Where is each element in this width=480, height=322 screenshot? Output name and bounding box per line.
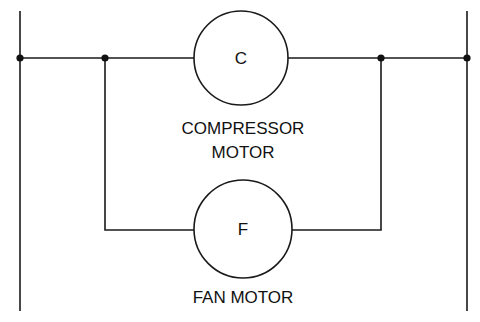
schematic-svg: C COMPRESSOR MOTOR F FAN MOTOR (0, 0, 480, 322)
compressor-motor-letter: C (235, 49, 247, 68)
ladder-diagram: C COMPRESSOR MOTOR F FAN MOTOR (0, 0, 480, 322)
fan-branch-wire-right (292, 58, 381, 230)
junction-node-branch-left (101, 54, 108, 61)
junction-node-right-rail (463, 54, 470, 61)
junction-node-branch-right (377, 54, 384, 61)
compressor-motor: C COMPRESSOR MOTOR (182, 11, 305, 162)
compressor-motor-label-line1: COMPRESSOR (182, 119, 305, 138)
compressor-motor-label-line2: MOTOR (212, 143, 275, 162)
fan-motor-label: FAN MOTOR (193, 288, 294, 307)
fan-branch-wire-left (105, 58, 194, 230)
fan-motor-letter: F (238, 220, 248, 239)
fan-motor: F FAN MOTOR (193, 180, 294, 307)
junction-node-left-rail (16, 54, 23, 61)
